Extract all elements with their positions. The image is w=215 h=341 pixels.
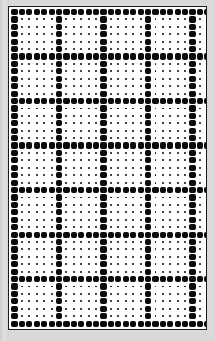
grid-dot-major: [189, 76, 195, 82]
grid-dot-minor: [51, 256, 53, 258]
grid-dot-minor: [43, 159, 45, 161]
grid-dot-major: [189, 202, 195, 208]
grid-dot-major: [138, 98, 144, 104]
grid-dot-minor: [73, 70, 75, 72]
grid-dot-minor: [95, 48, 97, 50]
grid-dot-minor: [73, 241, 75, 243]
grid-dot-minor: [43, 41, 45, 43]
grid-dot-minor: [88, 63, 90, 65]
grid-dot-minor: [169, 174, 171, 176]
grid-dot-major: [100, 46, 106, 52]
grid-dot-minor: [206, 108, 207, 110]
grid-dot-minor: [43, 115, 45, 117]
grid-dot-major: [145, 9, 151, 15]
grid-dot-minor: [132, 167, 134, 169]
grid-dot-minor: [36, 137, 38, 139]
grid-dot-major: [145, 321, 151, 327]
grid-dot-minor: [169, 70, 171, 72]
grid-dot-major: [56, 135, 62, 141]
grid-dot-major: [197, 142, 203, 148]
grid-dot-minor: [28, 93, 30, 95]
grid-dot-minor: [21, 122, 23, 124]
grid-dot-major: [189, 9, 195, 15]
grid-dot-minor: [125, 241, 127, 243]
grid-dot-minor: [110, 241, 112, 243]
grid-dot-minor: [169, 85, 171, 87]
grid-dot-minor: [117, 137, 119, 139]
grid-dot-minor: [117, 115, 119, 117]
grid-dot-major: [189, 98, 195, 104]
grid-dot-minor: [184, 219, 186, 221]
grid-dot-minor: [184, 85, 186, 87]
grid-dot-major: [189, 261, 195, 267]
grid-dot-minor: [28, 286, 30, 288]
grid-dot-minor: [206, 48, 207, 50]
grid-dot-minor: [206, 115, 207, 117]
grid-dot-major: [56, 120, 62, 126]
grid-dot-major: [152, 9, 158, 15]
grid-dot-minor: [169, 137, 171, 139]
grid-dot-minor: [80, 174, 82, 176]
grid-dot-minor: [88, 308, 90, 310]
grid-dot-minor: [65, 248, 67, 250]
grid-dot-minor: [155, 211, 157, 213]
grid-dot-major: [34, 321, 40, 327]
grid-dot-minor: [169, 115, 171, 117]
grid-dot-minor: [110, 26, 112, 28]
grid-dot-minor: [117, 263, 119, 265]
grid-dot-major: [56, 39, 62, 45]
grid-dot-major: [71, 9, 77, 15]
grid-dot-minor: [162, 248, 164, 250]
grid-dot-minor: [169, 211, 171, 213]
grid-dot-major: [189, 224, 195, 230]
grid-dot-minor: [65, 70, 67, 72]
grid-dot-minor: [155, 85, 157, 87]
grid-dot-minor: [140, 63, 142, 65]
grid-dot-minor: [95, 211, 97, 213]
grid-dot-minor: [65, 226, 67, 228]
grid-dot-minor: [73, 167, 75, 169]
grid-dot-minor: [155, 152, 157, 154]
grid-dot-minor: [36, 211, 38, 213]
grid-dot-minor: [21, 70, 23, 72]
grid-dot-minor: [43, 256, 45, 258]
grid-dot-minor: [28, 18, 30, 20]
grid-dot-major: [197, 321, 203, 327]
grid-dot-minor: [43, 48, 45, 50]
grid-dot-minor: [73, 122, 75, 124]
grid-dot-major: [56, 46, 62, 52]
grid-dot-minor: [65, 137, 67, 139]
grid-dot-major: [56, 157, 62, 163]
grid-dot-minor: [117, 241, 119, 243]
grid-dot-minor: [51, 70, 53, 72]
grid-dot-major: [41, 187, 47, 193]
grid-dot-major: [19, 187, 25, 193]
grid-dot-minor: [95, 26, 97, 28]
grid-dot-minor: [73, 130, 75, 132]
grid-dot-minor: [43, 108, 45, 110]
grid-dot-major: [100, 142, 106, 148]
grid-dot-minor: [155, 204, 157, 206]
grid-dot-minor: [169, 159, 171, 161]
grid-dot-major: [11, 46, 17, 52]
grid-dot-minor: [36, 241, 38, 243]
grid-dot-major: [100, 24, 106, 30]
grid-dot-minor: [184, 122, 186, 124]
grid-dot-major: [11, 246, 17, 252]
grid-dot-minor: [140, 78, 142, 80]
grid-dot-minor: [73, 108, 75, 110]
grid-dot-minor: [43, 122, 45, 124]
grid-dot-minor: [199, 70, 201, 72]
grid-dot-minor: [140, 300, 142, 302]
grid-dot-major: [189, 91, 195, 97]
grid-dot-minor: [28, 174, 30, 176]
grid-dot-major: [93, 53, 99, 59]
grid-dot-minor: [155, 197, 157, 199]
grid-dot-major: [145, 46, 151, 52]
grid-dot-minor: [65, 93, 67, 95]
grid-dot-minor: [21, 197, 23, 199]
grid-dot-minor: [177, 85, 179, 87]
grid-dot-minor: [140, 122, 142, 124]
grid-dot-minor: [177, 167, 179, 169]
grid-dot-major: [145, 39, 151, 45]
